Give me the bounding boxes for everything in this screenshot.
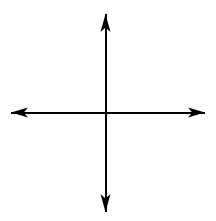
figure-background [0,0,216,221]
axes-canvas [0,0,216,221]
coordinate-axes-figure [0,0,216,221]
